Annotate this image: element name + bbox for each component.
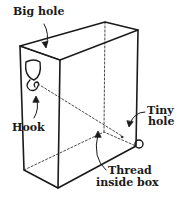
big-hole-label: Big hole: [13, 6, 65, 17]
hook-icon: [27, 80, 39, 91]
box-top-face: [20, 22, 138, 60]
thread-label-line2: inside box: [96, 177, 159, 188]
box-diagram: Big hole Hook Tiny hole Thread inside bo…: [0, 0, 181, 200]
hidden-edge-vertical: [104, 22, 105, 132]
tiny-hole-icon: [121, 136, 123, 138]
thread-line: [38, 84, 122, 136]
tiny-hole-label-line2: hole: [148, 116, 175, 127]
box-front-edge: [58, 60, 60, 188]
box-drawing: [0, 0, 181, 200]
thread-arrow-icon: [96, 134, 106, 170]
thread-label-line1: Thread: [108, 165, 152, 176]
hook-label: Hook: [12, 122, 45, 133]
big-hole-icon: [26, 60, 41, 80]
